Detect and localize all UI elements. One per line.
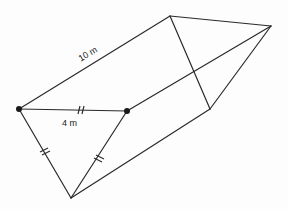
edge-cf bbox=[71, 109, 210, 198]
side-label: 4 m bbox=[62, 118, 77, 128]
vertex-dot-left bbox=[16, 106, 22, 112]
tick-mark-ac bbox=[40, 148, 50, 155]
length-label: 10 m bbox=[77, 45, 99, 64]
prism-diagram: 10 m 4 m bbox=[0, 0, 288, 209]
edge-be bbox=[127, 26, 271, 111]
edge-ad-length bbox=[19, 16, 170, 109]
edge-bc bbox=[71, 111, 127, 198]
edge-df bbox=[170, 16, 210, 109]
edge-ef bbox=[210, 26, 271, 109]
edge-ab bbox=[19, 109, 127, 111]
vertex-dot-right bbox=[124, 108, 130, 114]
edge-de bbox=[170, 16, 271, 26]
